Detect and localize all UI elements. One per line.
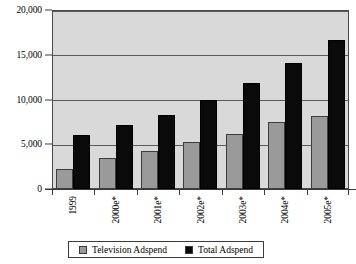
bar-television-adspend [268, 122, 285, 189]
x-tick-mark [137, 189, 138, 195]
bar-television-adspend [226, 134, 243, 189]
legend-item: Total Adspend [185, 245, 253, 255]
x-tick-mark [264, 189, 265, 195]
legend-label: Total Adspend [198, 245, 253, 255]
bar-group [307, 10, 349, 189]
legend-item: Television Adspend [79, 245, 167, 255]
x-tick-mark [94, 189, 95, 195]
bar-group [137, 10, 179, 189]
x-tick-label: 2005e* [323, 196, 333, 223]
x-tick-mark [52, 189, 53, 195]
y-tick-mark [45, 144, 52, 145]
bar-television-adspend [311, 116, 328, 189]
legend-label: Television Adspend [92, 245, 167, 255]
x-tick-label: 2000e* [111, 196, 121, 223]
x-tick-mark [222, 189, 223, 195]
bar-group [94, 10, 136, 189]
y-tick-mark [45, 54, 52, 55]
x-tick-mark [307, 189, 308, 195]
x-tick-label: 2002e* [196, 196, 206, 223]
y-tick-label: 0 [37, 184, 42, 194]
bar-chart: 05,00010,00015,00020,000 19992000e*2001e… [0, 0, 356, 264]
bar-television-adspend [141, 151, 158, 189]
y-tick-label: 10,000 [16, 95, 42, 105]
bar-group [264, 10, 306, 189]
bar-group [222, 10, 264, 189]
x-tick-label: 2003e* [238, 196, 248, 223]
x-tick-mark [348, 189, 349, 195]
y-axis: 05,00010,00015,00020,000 [0, 0, 52, 199]
x-tick-mark [179, 189, 180, 195]
legend-swatch-total [185, 246, 193, 254]
y-tick-label: 5,000 [21, 139, 42, 149]
y-tick-mark [45, 10, 52, 11]
bar-total-adspend [200, 100, 217, 190]
x-tick-label: 2001e* [153, 196, 163, 223]
y-tick-label: 20,000 [16, 5, 42, 15]
chart-legend: Television AdspendTotal Adspend [68, 241, 264, 258]
bar-total-adspend [328, 40, 345, 189]
bar-total-adspend [243, 83, 260, 190]
bar-total-adspend [116, 125, 133, 189]
y-tick-label: 15,000 [16, 50, 42, 60]
bar-television-adspend [56, 169, 73, 189]
x-tick-label: 2004e* [280, 196, 290, 223]
x-tick-label: 1999 [68, 196, 78, 215]
bar-group [179, 10, 221, 189]
bar-total-adspend [73, 135, 90, 189]
bar-group [52, 10, 94, 189]
y-tick-mark [45, 99, 52, 100]
bar-television-adspend [183, 142, 200, 189]
x-axis-ticks [52, 189, 349, 195]
bar-total-adspend [285, 63, 302, 189]
legend-swatch-tv [79, 246, 87, 254]
bar-total-adspend [158, 115, 175, 189]
bar-television-adspend [99, 158, 116, 189]
bars-layer [52, 10, 349, 189]
x-axis-labels: 19992000e*2001e*2002e*2003e*2004e*2005e* [52, 196, 349, 236]
